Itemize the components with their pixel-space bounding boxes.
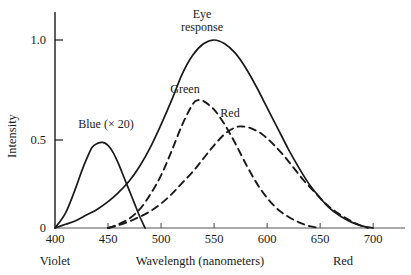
- y-axis-title-text: Intensity: [5, 114, 20, 158]
- chart-figure: 1.0 0.5 0 Intensity 40045050055060065070…: [0, 0, 411, 275]
- curve-red: [108, 126, 368, 228]
- x-axis-ticks: [55, 223, 373, 228]
- annotation-green: Green: [155, 83, 215, 96]
- xtick-label-650: 650: [295, 232, 345, 246]
- axis-end-label-violet: Violet: [30, 254, 80, 268]
- curve-eye-response: [55, 40, 373, 228]
- curve-blue-20: [55, 142, 145, 228]
- x-axis-title: Wavelength (nanometers): [110, 254, 290, 268]
- axis-end-label-red: Red: [318, 254, 368, 268]
- xtick-label-450: 450: [83, 232, 133, 246]
- xtick-label-400: 400: [30, 232, 80, 246]
- ytick-label-1: 1.0: [8, 33, 46, 47]
- y-axis-ticks: [55, 40, 63, 140]
- xtick-label-700: 700: [348, 232, 398, 246]
- annotation-eye-response-line2: response: [167, 21, 237, 34]
- chart-curves: [55, 40, 373, 228]
- annotation-red: Red: [205, 107, 255, 120]
- xtick-label-600: 600: [242, 232, 292, 246]
- annotation-blue: Blue (× 20): [64, 118, 148, 131]
- y-axis-title: Intensity: [4, 96, 20, 176]
- xtick-label-500: 500: [136, 232, 186, 246]
- xtick-label-550: 550: [189, 232, 239, 246]
